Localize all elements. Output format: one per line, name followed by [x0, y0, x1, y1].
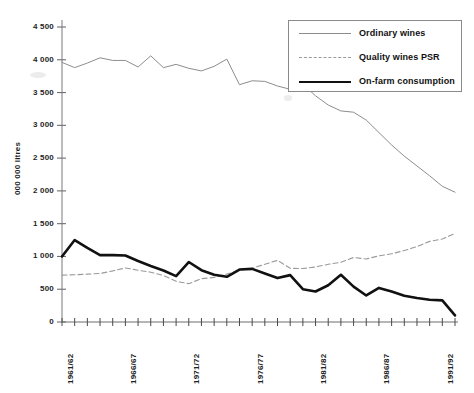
y-axis-tick-label: 3 000 [10, 120, 54, 129]
scan-artifact [30, 72, 46, 78]
thin-line-icon [299, 28, 351, 38]
x-axis-tick-label: 1971/72 [192, 354, 201, 384]
chart-legend: Ordinary wines Quality wines PSR On-farm… [288, 20, 462, 92]
scan-artifact [284, 95, 292, 101]
legend-item-quality-wines-psr: Quality wines PSR [289, 45, 463, 69]
y-axis-tick-label: 2 500 [10, 153, 54, 162]
thick-line-icon [299, 76, 351, 86]
y-axis-tick-label: 4 000 [10, 55, 54, 64]
series-line-on-farm-consumption [62, 240, 455, 315]
legend-label: Quality wines PSR [359, 52, 440, 62]
legend-label: On-farm consumption [359, 76, 455, 86]
y-axis-tick-label: 500 [10, 284, 54, 293]
y-axis-tick-label: 3 500 [10, 88, 54, 97]
legend-item-ordinary-wines: Ordinary wines [289, 21, 463, 45]
x-axis-tick-label: 1961/62 [66, 354, 75, 384]
x-axis-tick-label: 1976/77 [256, 354, 265, 384]
y-axis-tick-label: 2 000 [10, 186, 54, 195]
x-axis-tick-label: 1981/82 [319, 354, 328, 384]
data-series [62, 56, 455, 316]
x-axis-tick-label: 1991/92 [446, 354, 455, 384]
legend-item-on-farm-consumption: On-farm consumption [289, 69, 463, 93]
y-axis-tick-label: 0 [10, 317, 54, 326]
dashed-line-icon [299, 52, 351, 62]
y-axis-tick-label: 1 500 [10, 219, 54, 228]
line-chart: 000 000 litres 05001 0001 5002 0002 5003… [0, 0, 474, 393]
x-axis-tick-label: 1966/67 [129, 354, 138, 384]
series-line-quality-wines-psr [62, 234, 455, 284]
y-axis-tick-label: 4 500 [10, 22, 54, 31]
y-axis-tick-label: 1 000 [10, 251, 54, 260]
legend-label: Ordinary wines [359, 28, 425, 38]
x-axis-tick-label: 1986/87 [382, 354, 391, 384]
